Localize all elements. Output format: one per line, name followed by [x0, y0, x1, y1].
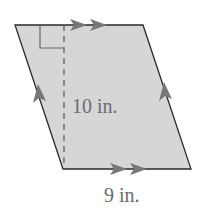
base-label: 9 in.: [104, 184, 140, 206]
height-label: 10 in.: [72, 95, 118, 117]
parallelogram-diagram: 10 in. 9 in.: [0, 0, 202, 212]
